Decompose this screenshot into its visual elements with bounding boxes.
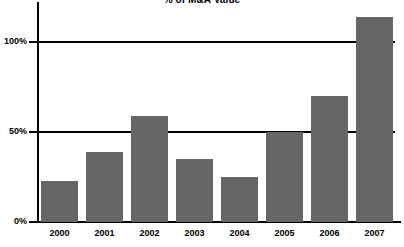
gridline-100 bbox=[31, 41, 395, 43]
x-label-2002: 2002 bbox=[131, 228, 168, 238]
y-tick-0 bbox=[29, 221, 37, 223]
plot-area: 100% 50% 0% 2000 2001 2002 2003 2004 200… bbox=[0, 0, 404, 247]
y-tick-label-0: 0% bbox=[0, 217, 27, 226]
x-label-2007: 2007 bbox=[356, 228, 393, 238]
y-tick-label-100: 100% bbox=[0, 37, 27, 46]
x-label-2004: 2004 bbox=[221, 228, 258, 238]
bar-2002 bbox=[131, 116, 168, 222]
x-label-2001: 2001 bbox=[86, 228, 123, 238]
x-label-2005: 2005 bbox=[266, 228, 303, 238]
y-tick-label-50: 50% bbox=[0, 127, 27, 136]
bar-2005 bbox=[266, 132, 303, 222]
bar-2006 bbox=[311, 96, 348, 222]
bar-2007 bbox=[356, 17, 393, 222]
bar-2001 bbox=[86, 152, 123, 222]
x-label-2003: 2003 bbox=[176, 228, 213, 238]
bar-chart: % of M&A Value 100% 50% 0% 2000 2001 200… bbox=[0, 0, 404, 247]
x-label-2000: 2000 bbox=[41, 228, 78, 238]
y-tick-100 bbox=[29, 41, 37, 43]
y-tick-50 bbox=[29, 131, 37, 133]
y-axis bbox=[37, 2, 39, 223]
bar-2004 bbox=[221, 177, 258, 222]
bar-2003 bbox=[176, 159, 213, 222]
x-label-2006: 2006 bbox=[311, 228, 348, 238]
bar-2000 bbox=[41, 181, 78, 222]
